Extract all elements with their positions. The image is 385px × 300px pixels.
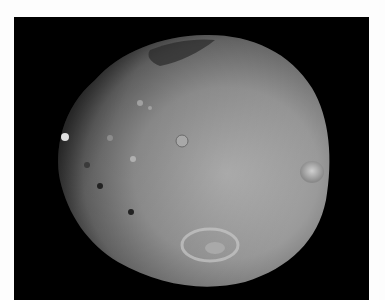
moon-body: [58, 35, 329, 287]
space-photo-frame: [14, 17, 369, 300]
moon-image: [14, 17, 369, 300]
